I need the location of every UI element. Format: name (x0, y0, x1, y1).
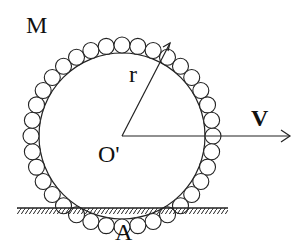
bead (145, 42, 161, 58)
bead (130, 38, 146, 54)
bead (114, 37, 130, 53)
bead (193, 83, 209, 99)
bead (23, 128, 39, 144)
bead (28, 159, 44, 175)
bead (98, 218, 114, 234)
bead (200, 97, 216, 113)
bead (24, 144, 40, 160)
bead (35, 174, 51, 190)
bead (200, 159, 216, 175)
bead (204, 144, 220, 160)
contact-point-label: A (115, 219, 133, 245)
bead (24, 112, 40, 128)
bead (204, 112, 220, 128)
velocity-label: V (251, 105, 269, 131)
bead (83, 214, 99, 230)
ground-hatching (17, 208, 228, 214)
bead (98, 38, 114, 54)
bead (28, 97, 44, 113)
bead (145, 214, 161, 230)
center-label: O' (98, 141, 120, 167)
bead (69, 49, 85, 65)
diagram-canvas: M r O' V A (0, 0, 307, 251)
bead (83, 42, 99, 58)
radius-label: r (129, 61, 137, 87)
mass-label: M (26, 12, 47, 38)
